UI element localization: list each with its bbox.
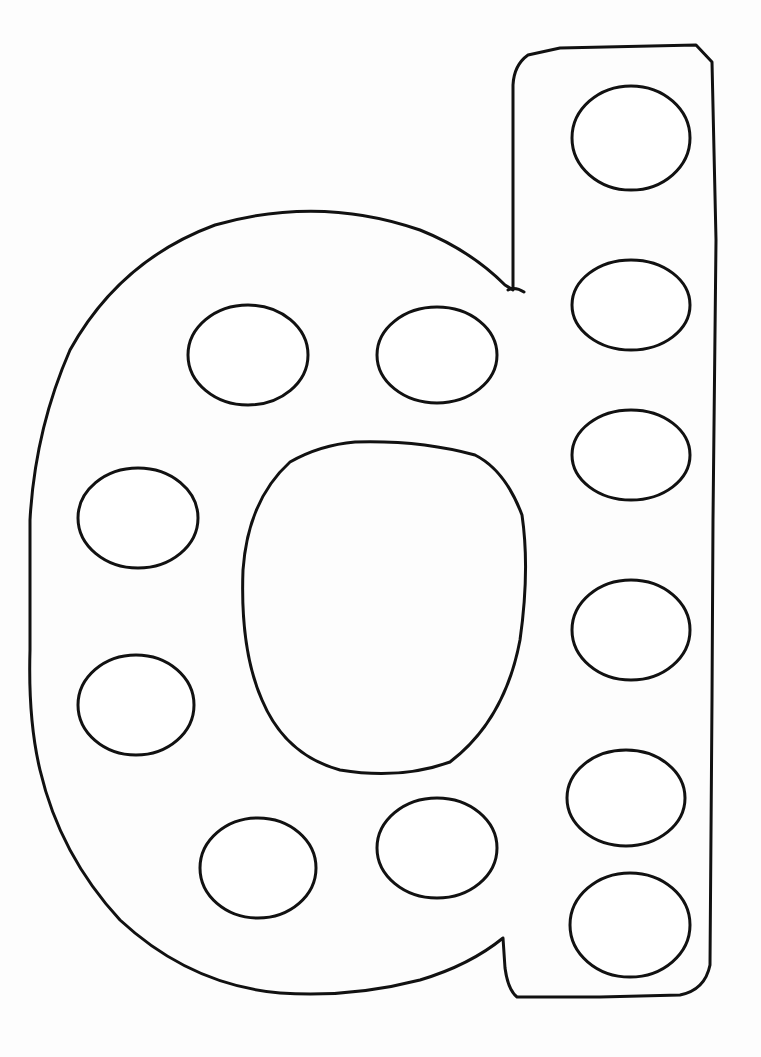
dot-circle-stem-5 — [567, 750, 685, 846]
dot-circle-bowl-left-upper — [78, 468, 198, 568]
dot-circle-bowl-top-right — [377, 307, 497, 403]
dot-circle-bowl-top-left — [188, 305, 308, 405]
dot-circle-stem-1 — [572, 86, 690, 190]
dot-circle-stem-4 — [572, 580, 690, 680]
dot-circle-bowl-bottom-left — [200, 818, 316, 918]
dot-circle-stem-6 — [570, 873, 690, 977]
dot-circle-stem-2 — [572, 260, 690, 350]
dot-circle-stem-3 — [572, 410, 690, 500]
dot-circle-bowl-bottom-right — [377, 798, 497, 898]
letter-d-worksheet — [0, 0, 761, 1057]
dot-circle-bowl-left-lower — [78, 655, 194, 755]
